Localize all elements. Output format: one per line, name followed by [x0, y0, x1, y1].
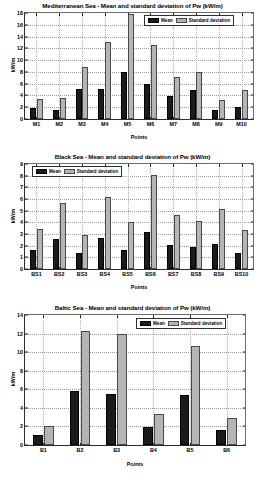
bar-standard-deviation [242, 230, 248, 269]
y-tick-mark [25, 257, 28, 258]
y-tick-mark [25, 164, 28, 165]
y-tick-mark [25, 407, 28, 408]
y-gridline [25, 371, 245, 372]
y-tick-mark [25, 199, 28, 200]
x-tick-label: M3 [78, 121, 86, 127]
bar-standard-deviation [227, 418, 237, 445]
legend-item-sd[interactable]: Standard deviation [64, 169, 118, 175]
legend-swatch-sd-icon [168, 321, 179, 327]
y-tick-mark [243, 370, 246, 371]
y-tick-mark [25, 107, 28, 108]
chart-baltic-sea: Baltic Sea - Mean and standard deviation… [0, 300, 265, 485]
bar-mean [98, 89, 104, 119]
bar-standard-deviation [196, 72, 202, 119]
bar-standard-deviation [151, 45, 157, 119]
x-tick-label: M9 [215, 121, 223, 127]
chart-title-black-sea: Black Sea - Mean and standard deviation … [0, 153, 265, 161]
x-tick-label: B1 [40, 447, 47, 453]
y-tick-mark [25, 269, 28, 270]
y-tick-mark [25, 245, 28, 246]
y-tick-label: 0 [20, 266, 23, 272]
legend-item-sd[interactable]: Standard deviation [176, 18, 230, 24]
y-tick-label: 7 [20, 184, 23, 190]
x-tick-label: M6 [147, 121, 155, 127]
y-tick-mark [25, 210, 28, 211]
x-tick-label: M1 [33, 121, 41, 127]
x-tick-label: BS2 [54, 271, 65, 277]
bar-mean [216, 430, 226, 445]
y-tick-label: 2 [20, 104, 23, 110]
legend-label-mean: Mean [153, 321, 165, 326]
y-tick-label: 6 [20, 196, 23, 202]
bar-mean [70, 391, 80, 445]
bar-standard-deviation [154, 414, 164, 445]
x-tick-mark [128, 164, 129, 167]
legend-black-sea[interactable]: Mean Standard deviation [32, 166, 122, 177]
xlabel-black-sea: Points [24, 284, 254, 290]
y-tick-label: 0 [20, 116, 23, 122]
x-tick-label: M8 [192, 121, 200, 127]
x-tick-mark [105, 13, 106, 16]
bar-mean [33, 435, 43, 445]
bar-standard-deviation [82, 67, 88, 119]
plot-area-mediterranean: 024681012141618M1M2M3M4M5M6M7M8M9M10 kW/… [24, 12, 254, 120]
bar-standard-deviation [196, 221, 202, 269]
bar-standard-deviation [37, 229, 43, 269]
y-tick-mark [251, 222, 254, 223]
y-tick-label: 10 [17, 57, 23, 63]
x-tick-mark [43, 315, 44, 318]
y-tick-mark [251, 83, 254, 84]
y-tick-mark [251, 164, 254, 165]
y-tick-mark [243, 407, 246, 408]
legend-swatch-mean-icon [36, 169, 47, 175]
bar-mean [143, 427, 153, 445]
x-tick-mark [196, 164, 197, 167]
y-tick-mark [25, 445, 28, 446]
bar-standard-deviation [174, 77, 180, 119]
legend-item-mean[interactable]: Mean [140, 321, 165, 327]
legend-baltic-sea[interactable]: Mean Standard deviation [136, 318, 226, 329]
axes-baltic-sea: 02468101214B1B2B3B4B5B6 [24, 314, 246, 446]
figure-page: Mediterranean Sea - Mean and standard de… [0, 0, 265, 499]
legend-item-mean[interactable]: Mean [36, 169, 61, 175]
y-tick-label: 12 [17, 45, 23, 51]
bar-standard-deviation [60, 203, 66, 270]
legend-mediterranean[interactable]: Mean Standard deviation [144, 15, 234, 26]
y-tick-mark [25, 315, 28, 316]
legend-label-sd: Standard deviation [77, 169, 118, 174]
x-tick-label: M10 [236, 121, 247, 127]
x-tick-label: BS1 [31, 271, 42, 277]
x-tick-label: BS4 [100, 271, 111, 277]
y-tick-mark [243, 352, 246, 353]
ylabel-baltic-sea: kW/m [10, 364, 16, 394]
chart-title-baltic-sea: Baltic Sea - Mean and standard deviation… [0, 304, 265, 312]
x-tick-mark [36, 13, 37, 16]
xlabel-baltic-sea: Points [24, 461, 246, 467]
y-tick-label: 8 [20, 368, 23, 374]
x-tick-label: M7 [169, 121, 177, 127]
bar-standard-deviation [60, 98, 66, 119]
y-gridline [25, 334, 245, 335]
y-tick-mark [25, 175, 28, 176]
legend-item-mean[interactable]: Mean [148, 18, 173, 24]
bar-mean [212, 244, 218, 269]
legend-label-mean: Mean [49, 169, 61, 174]
y-tick-label: 9 [20, 161, 23, 167]
bar-mean [121, 250, 127, 269]
chart-black-sea: Black Sea - Mean and standard deviation … [0, 150, 265, 300]
legend-label-sd: Standard deviation [181, 321, 222, 326]
y-tick-mark [25, 389, 28, 390]
y-tick-mark [25, 60, 28, 61]
bar-standard-deviation [82, 235, 88, 269]
xlabel-mediterranean: Points [24, 134, 254, 140]
y-tick-mark [251, 36, 254, 37]
bar-standard-deviation [81, 331, 91, 445]
y-tick-mark [251, 234, 254, 235]
bar-mean [212, 110, 218, 119]
y-tick-mark [251, 175, 254, 176]
bar-standard-deviation [242, 90, 248, 119]
y-tick-mark [243, 426, 246, 427]
legend-item-sd[interactable]: Standard deviation [168, 321, 222, 327]
axes-black-sea: 0123456789BS1BS2BS3BS4BS5BS6BS7BS8BS9BS1… [24, 163, 254, 270]
x-tick-label: B2 [77, 447, 84, 453]
